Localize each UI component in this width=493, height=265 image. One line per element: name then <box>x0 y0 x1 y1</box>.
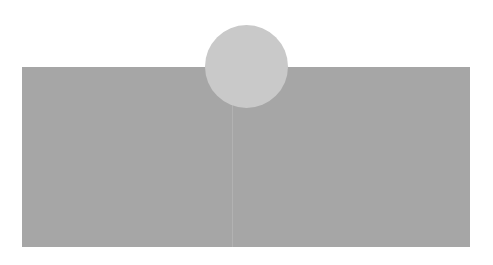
light-gray-circle <box>205 25 288 108</box>
canvas <box>0 0 493 265</box>
